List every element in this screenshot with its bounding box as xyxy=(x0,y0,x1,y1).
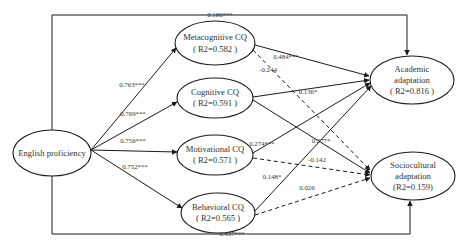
node-academic-label-2: adaptation xyxy=(394,75,430,85)
node-behav-label: Behavioral CQ xyxy=(192,202,245,212)
label-cog-academic: 0.136* xyxy=(299,88,318,95)
node-cog-label: Cognitive CQ xyxy=(191,87,240,97)
node-meta-r2: ( R2=0.582 ) xyxy=(193,44,237,54)
path-model-diagram: 0.180*** 0.437*** 0.763*** 0.769*** 0.75… xyxy=(0,0,459,249)
node-cog-r2: ( R2=0.591 ) xyxy=(193,98,237,108)
label-behav-academic: 0.148* xyxy=(263,173,282,180)
label-motiv-socio: -0.142 xyxy=(308,156,326,163)
node-academic-label-1: Academic xyxy=(395,64,430,74)
node-socio-label-2: adaptation xyxy=(395,171,431,181)
label-english-motiv: 0.756*** xyxy=(120,137,146,144)
label-meta-socio: -0.244 xyxy=(259,66,277,73)
node-metacognitive-cq xyxy=(175,21,255,65)
label-meta-academic: 0.484*** xyxy=(273,53,299,60)
label-english-academic: 0.180*** xyxy=(207,11,233,18)
label-behav-socio: 0.026 xyxy=(299,184,315,191)
node-academic-r2: ( R2=0.816 ) xyxy=(390,86,434,96)
node-motiv-label: Motivational CQ xyxy=(186,144,245,154)
node-socio-r2: (R2=0.159) xyxy=(393,182,433,192)
node-meta-label: Metacognitive CQ xyxy=(183,32,248,42)
label-cog-socio: 0.277* xyxy=(312,137,331,144)
node-motiv-r2: ( R2=0.571 ) xyxy=(193,155,237,165)
node-english-label: English proficiency xyxy=(18,148,86,158)
edge-english-meta xyxy=(91,48,176,150)
node-socio-label-1: Sociocultural xyxy=(390,160,436,170)
label-english-behav: 0.752*** xyxy=(122,163,148,170)
edge-english-motiv xyxy=(91,150,177,152)
edge-english-behav xyxy=(91,150,182,208)
label-motiv-academic: 0.274*** xyxy=(249,140,275,147)
edge-behav-academic xyxy=(255,86,371,211)
node-behav-r2: ( R2=0.565 ) xyxy=(196,213,240,223)
label-english-cog: 0.769*** xyxy=(120,110,146,117)
label-english-meta: 0.763*** xyxy=(119,81,145,88)
